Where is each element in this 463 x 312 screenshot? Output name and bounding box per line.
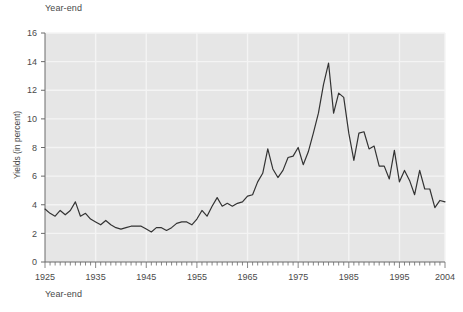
svg-text:14: 14 <box>27 57 37 67</box>
x-axis-label: Year-end <box>45 289 82 299</box>
svg-text:1975: 1975 <box>288 272 308 282</box>
svg-text:10: 10 <box>27 114 37 124</box>
y-axis-tick-labels: 0246810121416 <box>27 28 37 267</box>
svg-text:1925: 1925 <box>35 272 55 282</box>
y-axis-ticks <box>41 33 45 262</box>
svg-text:12: 12 <box>27 85 37 95</box>
x-axis-tick-labels: 192519351945195519651975198519952004 <box>35 272 455 282</box>
svg-text:1955: 1955 <box>187 272 207 282</box>
svg-text:1985: 1985 <box>339 272 359 282</box>
svg-text:0: 0 <box>32 257 37 267</box>
svg-text:8: 8 <box>32 143 37 153</box>
svg-text:1965: 1965 <box>238 272 258 282</box>
svg-text:1935: 1935 <box>86 272 106 282</box>
chart-plot-svg: 0246810121416 19251935194519551965197519… <box>0 0 463 312</box>
svg-text:1945: 1945 <box>136 272 156 282</box>
x-axis-ticks <box>45 262 445 268</box>
svg-text:16: 16 <box>27 28 37 38</box>
svg-text:4: 4 <box>32 200 37 210</box>
svg-text:2: 2 <box>32 229 37 239</box>
chart-container: Year-end Yields (in percent) 02468101214… <box>0 0 463 312</box>
svg-text:6: 6 <box>32 171 37 181</box>
svg-text:2004: 2004 <box>435 272 455 282</box>
svg-text:1995: 1995 <box>389 272 409 282</box>
